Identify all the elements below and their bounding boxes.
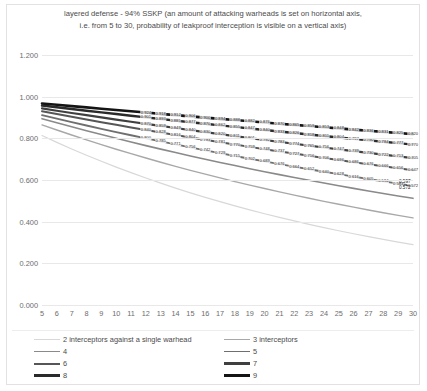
data-label-text: 0.686 xyxy=(349,159,360,164)
data-point-label: 0.727 xyxy=(289,151,300,156)
data-point-label: 0.836 xyxy=(363,128,374,133)
legend-swatch xyxy=(34,339,60,340)
legend-item[interactable]: 2 interceptors against a single warhead xyxy=(34,335,192,344)
data-point-label: 0.811 xyxy=(318,133,329,138)
data-point-label: 0.676 xyxy=(363,161,374,166)
legend-item[interactable]: 9 xyxy=(224,371,257,380)
data-point-label: 0.901 xyxy=(140,114,151,119)
data-label-text: 0.818 xyxy=(304,132,315,137)
data-label-text: 0.676 xyxy=(363,161,374,166)
data-label-text: 0.727 xyxy=(289,151,300,156)
data-label-text: 0.820 xyxy=(215,131,226,136)
data-point-label: 0.716 xyxy=(304,153,315,158)
data-label-text: 0.759 xyxy=(245,144,256,149)
data-point-label: 0.888 xyxy=(229,117,240,122)
legend-item[interactable]: 6 xyxy=(34,359,67,368)
data-point-label: 0.833 xyxy=(274,129,285,134)
data-point-label: 0.840 xyxy=(185,127,196,132)
legend-item[interactable]: 5 xyxy=(224,347,257,356)
data-label-text: 0.705 xyxy=(408,155,419,160)
data-point-label: 0.906 xyxy=(185,113,196,118)
data-point-label: 0.847 xyxy=(244,125,255,130)
data-point-label: 0.748 xyxy=(259,146,270,151)
data-point-label: 0.893 xyxy=(155,116,166,121)
data-point-label: 0.628 xyxy=(333,171,344,176)
data-point-label: 0.818 xyxy=(304,132,315,137)
data-point-label: 0.777 xyxy=(393,140,404,145)
legend-item[interactable]: 3 interceptors xyxy=(224,335,298,344)
legend-swatch xyxy=(224,362,250,364)
data-point-label: 0.877 xyxy=(185,119,196,124)
y-gridline xyxy=(42,97,413,98)
data-label-text: 0.756 xyxy=(185,144,196,149)
data-point-label: 0.820 xyxy=(214,131,225,136)
data-label-text: 0.770 xyxy=(408,142,419,147)
data-point-label: 0.774 xyxy=(289,141,300,146)
data-point-label: 0.616 xyxy=(348,174,359,179)
data-point-label: 0.647 xyxy=(407,167,418,172)
y-axis-tick-label: 1.000 xyxy=(0,92,38,101)
legend-swatch xyxy=(34,374,60,376)
data-label-text: 0.784 xyxy=(378,139,389,144)
data-label-text: 0.666 xyxy=(378,163,389,168)
legend-label: 2 interceptors against a single warhead xyxy=(63,335,192,344)
data-point-label: 0.870 xyxy=(274,121,285,126)
data-point-label: 0.840 xyxy=(259,127,270,132)
data-label-text: 0.656 xyxy=(393,165,404,170)
data-point-label: 0.855 xyxy=(229,124,240,129)
data-label-text: 0.730 xyxy=(363,150,374,155)
data-point-label: 0.739 xyxy=(348,148,359,153)
y-gridline xyxy=(42,222,413,223)
data-label-text: 0.877 xyxy=(185,119,196,124)
legend-item[interactable]: 7 xyxy=(224,359,257,368)
data-point-label: 0.686 xyxy=(348,159,359,164)
legend-item[interactable]: 8 xyxy=(34,371,67,380)
data-point-label: 0.705 xyxy=(407,155,418,160)
data-point-label: 0.849 xyxy=(170,125,181,130)
chart-legend: 2 interceptors against a single warhead3… xyxy=(12,330,414,381)
data-point-label: 0.784 xyxy=(378,139,389,144)
data-label-text: 0.831 xyxy=(378,129,389,134)
y-axis-tick-label: 0.400 xyxy=(0,217,38,226)
data-label-text: 0.676 xyxy=(274,161,285,166)
data-point-label: 0.730 xyxy=(363,150,374,155)
data-point-label: 0.765 xyxy=(304,143,315,148)
y-axis-tick-label: 0.600 xyxy=(0,176,38,185)
data-label-text: 0.855 xyxy=(230,124,241,129)
data-point-label: 0.859 xyxy=(155,123,166,128)
data-point-label: 0.853 xyxy=(318,124,329,129)
data-point-label: 0.759 xyxy=(244,144,255,149)
y-axis-tick-label: 0.200 xyxy=(0,259,38,268)
data-label-text: 0.774 xyxy=(289,141,300,146)
y-gridline xyxy=(42,55,413,56)
data-label-text: 0.865 xyxy=(289,122,300,127)
data-label-text: 0.862 xyxy=(215,122,226,127)
data-point-label: 0.882 xyxy=(244,118,255,123)
data-point-label: 0.783 xyxy=(274,139,285,144)
legend-item[interactable]: 4 xyxy=(34,347,67,356)
y-gridline xyxy=(42,263,413,264)
data-point-label: 0.894 xyxy=(214,116,225,121)
data-label-text: 0.771 xyxy=(170,141,181,146)
data-label-text: 0.647 xyxy=(408,167,419,172)
data-label-text: 0.702 xyxy=(245,156,256,161)
data-point-label: 0.848 xyxy=(333,125,344,130)
data-label-text: 0.859 xyxy=(156,123,167,128)
data-point-label: 0.715 xyxy=(229,153,240,158)
data-point-label: 0.696 xyxy=(333,157,344,162)
data-label-text: 0.716 xyxy=(304,153,315,158)
legend-label: 7 xyxy=(253,359,257,368)
data-point-label: 0.811 xyxy=(229,133,240,138)
data-point-label: 0.825 xyxy=(393,130,404,135)
data-label-text: 0.811 xyxy=(230,133,241,138)
data-point-label: 0.729 xyxy=(214,150,225,155)
data-label-text: 0.820 xyxy=(408,131,419,136)
data-label-text: 0.652 xyxy=(304,166,315,171)
data-label-text: 0.848 xyxy=(334,125,345,130)
data-point-label: 0.820 xyxy=(407,131,418,136)
data-label-text: 0.713 xyxy=(393,153,404,158)
data-label-text: 0.894 xyxy=(215,116,226,121)
data-point-label: 0.702 xyxy=(244,156,255,161)
data-label-text: 0.900 xyxy=(200,115,211,120)
data-point-label: 0.912 xyxy=(170,112,181,117)
